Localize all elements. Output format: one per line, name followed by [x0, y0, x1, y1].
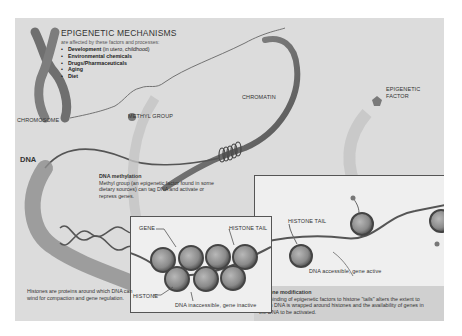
dna-label: DNA — [20, 155, 36, 164]
factor-item: •Aging — [61, 66, 150, 73]
factor-item: •Drugs/Pharmaceuticals — [61, 60, 150, 67]
histones-note: Histones are proteins around which DNA c… — [27, 288, 139, 301]
dna-accessible-label: DNA accessible, gene active — [309, 268, 381, 274]
epigenetic-factor-label-1: EPIGENETIC — [386, 86, 420, 92]
factor-list: •Development (in utero, childhood) •Envi… — [61, 46, 150, 80]
dna-methylation-heading: DNA methylation — [99, 173, 221, 180]
epigenetics-diagram: EPIGENETIC MECHANISMS are affected by th… — [15, 18, 444, 321]
chromosome-label: CHROMOSOME — [17, 117, 59, 123]
accessible-dna-panel: HISTONE TAIL DNA accessible, gene active — [254, 175, 444, 288]
histone-modification-body: The binding of epigenetic factors to his… — [259, 296, 424, 315]
inaccessible-dna-panel: GENE HISTONE TAIL HISTONE DNA inaccessib… — [130, 216, 272, 313]
diagram-title: EPIGENETIC MECHANISMS — [61, 28, 177, 38]
histone-tail-label-right: HISTONE TAIL — [288, 218, 326, 224]
histone-modification-callout: Histone modification The binding of epig… — [259, 289, 429, 315]
factor-item: •Diet — [61, 73, 150, 80]
factor-item: •Environmental chemicals — [61, 53, 150, 60]
gene-label: GENE — [139, 225, 155, 231]
diagram-subtitle: are affected by these factors and proces… — [61, 39, 159, 45]
factor-item: •Development (in utero, childhood) — [61, 46, 150, 53]
epigenetic-factor-icon — [372, 96, 382, 106]
methyl-group-label: METHYL GROUP — [128, 113, 173, 119]
epigenetic-factor-label-2: FACTOR — [386, 93, 409, 99]
dna-methylation-body: Methyl group (an epigenetic factor found… — [99, 180, 214, 199]
histone-modification-heading: Histone modification — [259, 289, 429, 296]
dna-inaccessible-label: DNA inaccessible, gene inactive — [175, 302, 256, 308]
dna-methylation-callout: DNA methylation Methyl group (an epigene… — [99, 173, 221, 199]
chromatin-label: CHROMATIN — [242, 94, 276, 100]
histone-tail-label-left: HISTONE TAIL — [229, 225, 267, 231]
